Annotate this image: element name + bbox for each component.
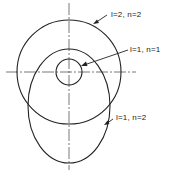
- label-l2-n2: l=2, n=2: [111, 10, 142, 19]
- leader-l1n1: [81, 50, 128, 66]
- label-l1-n2: l=1, n=2: [116, 113, 147, 122]
- label-l1-n1: l=1, n=1: [130, 45, 161, 54]
- orbit-diagram: [0, 0, 169, 174]
- leader-l2n2: [93, 15, 107, 24]
